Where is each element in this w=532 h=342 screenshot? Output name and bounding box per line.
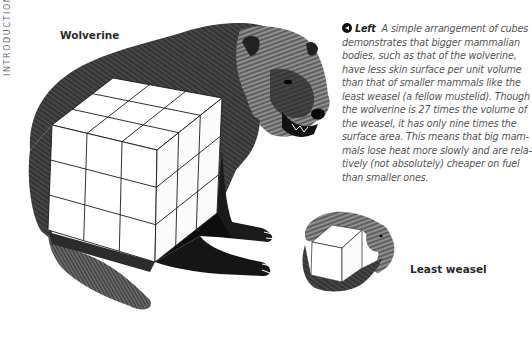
caption-line: have less skin surface per unit volume <box>342 63 518 77</box>
left-arrow-circle-icon <box>342 23 352 33</box>
caption-line: mals lose heat more slowly and are rela- <box>342 144 518 158</box>
caption-line: demonstrates that bigger mammalian <box>342 36 518 50</box>
caption-line: the weasel, it has only nine times the <box>342 117 518 131</box>
caption-line: least weasel (a fellow mustelid). Though <box>342 90 518 104</box>
caption-line: than that of smaller mammals like the <box>342 76 518 90</box>
caption-line: surface area. This means that big mam- <box>342 130 518 144</box>
caption-line: the wolverine is 27 times the volume of <box>342 103 518 117</box>
caption-line: bodies, such as that of the wolverine, <box>342 49 518 63</box>
least-weasel-label: Least weasel <box>410 263 487 275</box>
caption-line: A simple arrangement of cubes <box>382 23 528 34</box>
figure-caption: Left A simple arrangement of cubes demon… <box>342 22 518 185</box>
caption-line: tively (not absolutely) cheaper on fuel <box>342 157 518 171</box>
caption-line: than smaller ones. <box>342 171 518 185</box>
wolverine-label: Wolverine <box>60 29 119 41</box>
caption-line-first: Left A simple arrangement of cubes <box>342 22 518 36</box>
caption-lead: Left <box>355 23 376 34</box>
